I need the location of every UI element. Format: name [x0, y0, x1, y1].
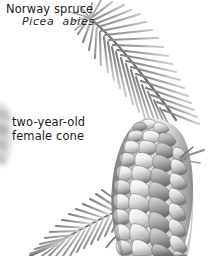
scientific-name-label: Picea abies: [22, 15, 95, 28]
botanical-illustration-figure: Norway spruce Picea abies two-year-old f…: [0, 0, 215, 256]
common-name-label: Norway spruce: [6, 2, 93, 16]
cone-caption-label: two-year-old female cone: [12, 115, 85, 143]
